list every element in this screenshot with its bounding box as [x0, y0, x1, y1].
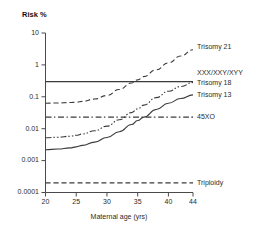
- y-tick-group: 1010.10.010.0010.0001: [18, 29, 46, 196]
- chart-title: Risk %: [22, 10, 47, 19]
- series-line-trisomy-18: [46, 83, 194, 138]
- legend-label-trisomy-21: Trisomy 21: [197, 43, 231, 51]
- y-tick-label: 1: [35, 61, 39, 68]
- x-tick-label: 30: [103, 198, 111, 205]
- legend-label-trisomy-13: Trisomy 13: [197, 91, 231, 99]
- x-tick-label: 25: [72, 198, 80, 205]
- y-tick-label: 10: [31, 29, 39, 36]
- legend-group: Trisomy 21XXX/XXY/XYYTrisomy 18Trisomy 1…: [197, 43, 243, 187]
- series-group: [46, 50, 194, 183]
- x-axis-title: Maternal age (yrs): [91, 213, 148, 221]
- legend-label-45xo: 45XO: [197, 113, 215, 120]
- x-tick-label: 44: [189, 198, 197, 205]
- series-line-trisomy-21: [46, 50, 194, 104]
- y-tick-label: 0.0001: [18, 188, 40, 195]
- x-tick-label: 35: [134, 198, 142, 205]
- chart-canvas: Risk % 1010.10.010.0010.0001 20253035404…: [0, 0, 259, 235]
- risk-by-maternal-age-chart: Risk % 1010.10.010.0010.0001 20253035404…: [0, 0, 259, 235]
- x-tick-label: 40: [165, 198, 173, 205]
- y-tick-label: 0.001: [21, 156, 39, 163]
- y-tick-label: 0.1: [29, 93, 39, 100]
- legend-label-trisomy-18: Trisomy 18: [197, 79, 231, 87]
- x-tick-label: 20: [42, 198, 50, 205]
- x-tick-group: 202530354044: [42, 193, 197, 205]
- legend-label-xxx-xxy-xyy: XXX/XXY/XYY: [197, 69, 243, 76]
- y-tick-label: 0.01: [25, 125, 39, 132]
- legend-label-triploidy: Triploidy: [197, 179, 224, 187]
- series-line-trisomy-13: [46, 95, 194, 150]
